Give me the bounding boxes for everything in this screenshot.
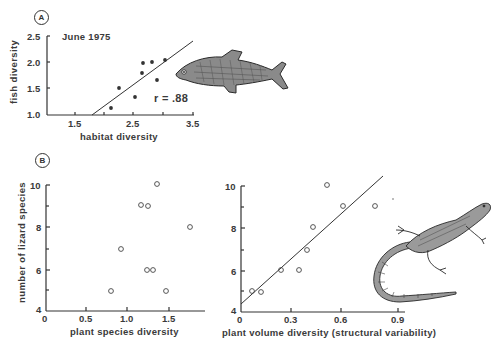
panel-a-xlabel: habitat diversity — [80, 131, 158, 142]
chart-svg — [0, 0, 496, 345]
panel-a-ytick-2.5: 2.5 — [27, 31, 40, 42]
panel-b-left-xtick-0: 0 — [42, 313, 47, 324]
panel-a-r-value: r = .88 — [154, 92, 188, 104]
panel-b-right-ytick-8: 8 — [231, 223, 236, 234]
panel-a-ylabel: fish diversity — [8, 40, 19, 104]
panel-b-right-ytick-6: 6 — [231, 266, 236, 277]
panel-b-right-xtick-0.6: 0.6 — [334, 314, 347, 325]
panel-a-ytick-1.5: 1.5 — [27, 83, 40, 94]
panel-a-ytick-2.0: 2.0 — [27, 57, 40, 68]
panel-b-right-xtick-0.9: 0.9 — [391, 314, 404, 325]
panel-b-left-xtick-1.5: 1.5 — [162, 313, 175, 324]
panel-a-xtick-1.5: 1.5 — [68, 118, 81, 129]
panel-b-left-ytick-10: 10 — [30, 180, 41, 191]
panel-a-annotation: June 1975 — [62, 31, 111, 42]
panel-a-xtick-3.5: 3.5 — [186, 118, 199, 129]
panel-b-left-axes — [46, 185, 205, 311]
lizard-illustration — [374, 203, 491, 302]
panel-b-right-xtick-0: 0 — [237, 314, 242, 325]
panel-b-right-ytick-4: 4 — [231, 305, 236, 316]
panel-b-right-xtick-0.3: 0.3 — [284, 314, 297, 325]
panel-b-left-xtick-0.5: 0.5 — [79, 313, 92, 324]
panel-b-right-xlabel: plant volume diversity (structural varia… — [222, 327, 436, 338]
panel-b-left-ytick-4: 4 — [36, 304, 41, 315]
panel-a-ytick-1.0: 1.0 — [27, 109, 40, 120]
panel-b-left-ytick-8: 8 — [36, 222, 41, 233]
panel-a-xtick-2.5: 2.5 — [126, 118, 139, 129]
panel-b-left-points — [109, 182, 193, 294]
panel-b-left-xtick-1.0: 1.0 — [120, 313, 133, 324]
fish-illustration — [176, 50, 288, 93]
panel-b-ylabel: number of lizard species — [16, 182, 27, 303]
panel-b-right-regression-line — [241, 176, 383, 304]
panel-b-badge: B — [35, 153, 50, 168]
panel-b-right-ytick-10: 10 — [225, 181, 236, 192]
panel-b-left-xlabel: plant species diversity — [70, 326, 179, 337]
panel-b-left-ytick-6: 6 — [36, 265, 41, 276]
